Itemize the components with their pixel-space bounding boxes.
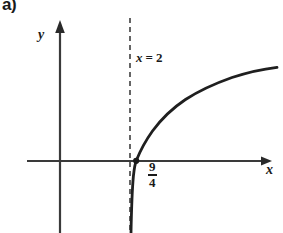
y-axis-label: y [38,28,44,42]
asymptote-label-value: 2 [156,50,163,65]
asymptote-label-variable: x [136,50,143,65]
asymptote-label: x=2 [136,51,162,64]
logarithmic-curve [131,67,277,233]
x-intercept-fraction-label: 9 4 [148,160,157,190]
x-intercept-dot [133,158,139,164]
figure-container: a) y x x=2 9 4 [0,0,283,233]
asymptote-label-equals: = [146,50,153,65]
fraction-denominator: 4 [148,176,157,190]
x-axis-label: x [266,163,273,177]
y-axis-arrowhead [55,20,65,33]
fraction-numerator: 9 [148,160,157,174]
